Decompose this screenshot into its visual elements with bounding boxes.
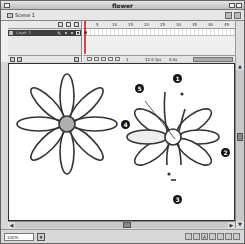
layer-name[interactable]: Layer 1 — [16, 30, 31, 36]
scene-bar: Scene 1 — [1, 10, 244, 21]
ruler-tick: 20 — [144, 21, 149, 29]
stage-vscroll[interactable]: ▲ ▼ — [235, 63, 244, 228]
ruler-tick: 5 — [96, 21, 99, 29]
movie-explorer-icon[interactable] — [225, 233, 232, 240]
frame-rate: 12.0 fps — [145, 56, 161, 63]
eye-icon[interactable] — [58, 22, 63, 27]
add-layer-icon[interactable] — [10, 57, 15, 62]
scroll-right-arrow[interactable]: ▶ — [228, 222, 235, 228]
frames-panel: 5 10 15 20 25 30 35 40 45 1 12.0 fps — [83, 21, 235, 62]
hscroll-thumb[interactable] — [123, 222, 131, 228]
playhead[interactable] — [84, 21, 86, 54]
pencil-icon: ✎ — [57, 30, 61, 36]
outline-square[interactable] — [76, 31, 80, 35]
current-frame: 1 — [126, 56, 129, 63]
zoom-box[interactable] — [229, 3, 235, 8]
stage-hscroll[interactable]: ◀ ▶ — [8, 221, 235, 228]
elapsed-time: 0.0s — [169, 56, 177, 63]
mixer-panel-icon[interactable] — [193, 233, 200, 240]
edit-symbols-icon[interactable] — [234, 12, 241, 19]
ruler-tick: 25 — [160, 21, 165, 29]
layers-footer — [8, 55, 81, 62]
timeline-hscroll[interactable] — [193, 57, 233, 62]
zoom-field[interactable]: 100% — [4, 233, 34, 241]
frame-ruler[interactable]: 5 10 15 20 25 30 35 40 45 — [83, 21, 235, 29]
ruler-tick: 35 — [192, 21, 197, 29]
stage-canvas[interactable] — [9, 64, 234, 220]
scroll-left-arrow[interactable]: ◀ — [8, 222, 15, 228]
collapse-box[interactable] — [236, 3, 242, 8]
ruler-tick: 15 — [128, 21, 133, 29]
info-panel-icon[interactable] — [185, 233, 192, 240]
scroll-down-arrow[interactable]: ▼ — [236, 221, 244, 228]
layers-header — [8, 21, 81, 29]
library-icon[interactable] — [233, 233, 240, 240]
window-title: flower — [1, 1, 244, 10]
instance-panel-icon[interactable] — [209, 233, 216, 240]
bottom-bar: 100% ▾ A — [1, 229, 244, 243]
zoom-dropdown[interactable]: ▾ — [37, 233, 45, 241]
edit-multiple-icon[interactable] — [108, 57, 113, 61]
vscroll-thumb[interactable] — [237, 133, 243, 141]
scroll-up-arrow[interactable]: ▲ — [236, 63, 244, 70]
outline-icon[interactable] — [74, 22, 79, 27]
layers-panel: Layer 1 ✎ — [8, 21, 82, 62]
ruler-tick: 30 — [176, 21, 181, 29]
lock-dot[interactable] — [71, 32, 73, 34]
flower-right — [127, 92, 219, 180]
launcher-bar: A — [185, 233, 240, 240]
ruler-tick: 45 — [224, 21, 229, 29]
timeline: Layer 1 ✎ 5 10 15 20 25 30 35 40 — [1, 21, 244, 62]
ruler-tick: 40 — [208, 21, 213, 29]
onion-markers-icon[interactable] — [115, 57, 120, 61]
onion-outline-icon[interactable] — [101, 57, 106, 61]
onion-skin-icon[interactable] — [94, 57, 99, 61]
flash-window: flower Scene 1 Layer 1 ✎ — [0, 0, 245, 244]
add-guide-layer-icon[interactable] — [17, 57, 22, 62]
callout-4: 4 — [121, 120, 130, 129]
lock-icon[interactable] — [66, 22, 71, 27]
scene-icon — [7, 13, 13, 18]
title-bar[interactable]: flower — [1, 1, 244, 10]
callout-2: 2 — [221, 148, 230, 157]
scene-name[interactable]: Scene 1 — [15, 10, 35, 21]
center-frame-icon[interactable] — [87, 57, 92, 61]
timeline-status: 1 12.0 fps 0.0s — [83, 55, 235, 62]
flower-left — [17, 74, 117, 174]
frame-row[interactable] — [83, 29, 235, 36]
layer-row[interactable]: Layer 1 ✎ — [8, 30, 81, 36]
edit-scene-icon[interactable] — [225, 12, 232, 19]
stage[interactable]: 1 2 3 4 5 — [8, 63, 235, 221]
callout-3: 3 — [173, 195, 182, 204]
delete-layer-icon[interactable] — [74, 57, 79, 62]
callout-1: 1 — [173, 74, 182, 83]
actions-panel-icon[interactable] — [217, 233, 224, 240]
visible-dot[interactable] — [65, 32, 67, 34]
timeline-vscroll[interactable] — [235, 21, 244, 62]
character-panel-icon[interactable]: A — [201, 233, 208, 240]
ruler-tick: 10 — [112, 21, 117, 29]
callout-5: 5 — [135, 84, 144, 93]
layer-icon — [9, 31, 13, 35]
